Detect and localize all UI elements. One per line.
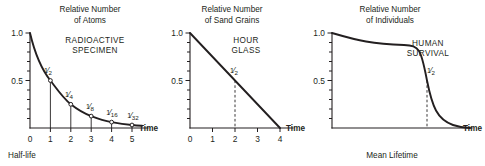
x-tick-label-4: 4 xyxy=(109,134,114,144)
data-label-1-16: 1⁄16 xyxy=(106,107,118,118)
chart-annotation-line1: HUMAN xyxy=(412,39,444,48)
chart-human-survival: Relative Number of Individuals HUMAN SUR… xyxy=(300,0,485,166)
frac-denominator: 16 xyxy=(111,111,118,118)
chart-title-line1: Relative Number xyxy=(202,5,263,14)
x-tick-label-5: 5 xyxy=(130,134,135,144)
chart-annotation-line1: HOUR xyxy=(233,36,259,45)
x-tick-label-1: 1 xyxy=(210,134,215,144)
x-tick-label-1: 1 xyxy=(48,134,53,144)
data-label-1-4: 1⁄4 xyxy=(65,89,73,100)
x-axis-ticks xyxy=(213,128,281,132)
survival-curve xyxy=(332,33,470,128)
frac-denominator: 8 xyxy=(90,105,94,112)
y-tick-label-1: 1.0 xyxy=(11,28,23,38)
y-axis-ticks xyxy=(26,33,31,119)
x-tick-label-4: 4 xyxy=(278,134,283,144)
frac-denominator: 32 xyxy=(132,114,139,121)
under-axis-label: Mean Lifetime xyxy=(366,151,418,160)
frac-denominator: 4 xyxy=(69,93,73,100)
chart-title-line1: Relative Number xyxy=(360,5,421,14)
svg-text:1⁄2: 1⁄2 xyxy=(44,65,52,76)
svg-text:1⁄16: 1⁄16 xyxy=(106,107,118,118)
data-label-1-8: 1⁄8 xyxy=(86,101,94,112)
chart-annotation-line2: SPECIMEN xyxy=(72,46,118,55)
svg-text:1⁄32: 1⁄32 xyxy=(127,110,139,121)
data-label-1-2: 1⁄2 xyxy=(230,65,238,76)
chart-title-line2: of Individuals xyxy=(366,16,414,25)
chart-annotation-line1: RADIOACTIVE xyxy=(65,36,125,45)
y-tick-label-2: 0.5 xyxy=(171,76,183,86)
x-tick-label-3: 3 xyxy=(89,134,94,144)
chart-radioactive-specimen: Relative Number of Atoms RADIOACTIVE SPE… xyxy=(0,0,165,166)
x-axis-ticks xyxy=(50,128,132,132)
svg-text:1⁄2: 1⁄2 xyxy=(427,65,435,76)
x-tick-label-0: 0 xyxy=(188,134,193,144)
x-tick-label-0: 0 xyxy=(28,134,33,144)
frac-denominator: 2 xyxy=(234,69,238,76)
data-label-1-2: 1⁄2 xyxy=(44,65,52,76)
y-tick-label-2: 0.5 xyxy=(313,76,325,86)
under-axis-label: Half-life xyxy=(8,151,36,160)
y-axis-ticks xyxy=(186,33,191,119)
frac-denominator: 2 xyxy=(431,69,435,76)
svg-text:1⁄4: 1⁄4 xyxy=(65,89,73,100)
chart-title-line2: of Atoms xyxy=(74,16,106,25)
x-tick-label-2: 2 xyxy=(68,134,73,144)
y-tick-label-2: 0.5 xyxy=(11,76,23,86)
frac-denominator: 2 xyxy=(48,69,52,76)
svg-text:1⁄8: 1⁄8 xyxy=(86,101,94,112)
x-tick-label-3: 3 xyxy=(255,134,260,144)
data-label-1-32: 1⁄32 xyxy=(127,110,139,121)
chart-annotation-line2: SURVIVAL xyxy=(407,49,450,58)
data-label-1-2: 1⁄2 xyxy=(427,65,435,76)
chart-title-line1: Relative Number xyxy=(60,5,121,14)
chart-title-line2: of Sand Grains xyxy=(205,16,260,25)
chart-hour-glass: Relative Number of Sand Grains HOUR GLAS… xyxy=(160,0,305,166)
y-tick-label-1: 1.0 xyxy=(313,28,325,38)
y-axis-ticks xyxy=(328,33,333,119)
svg-text:1⁄2: 1⁄2 xyxy=(230,65,238,76)
three-decay-curves-figure: Relative Number of Atoms RADIOACTIVE SPE… xyxy=(0,0,485,166)
y-tick-label-1: 1.0 xyxy=(171,28,183,38)
x-tick-label-2: 2 xyxy=(233,134,238,144)
chart-annotation-line2: GLASS xyxy=(231,46,260,55)
